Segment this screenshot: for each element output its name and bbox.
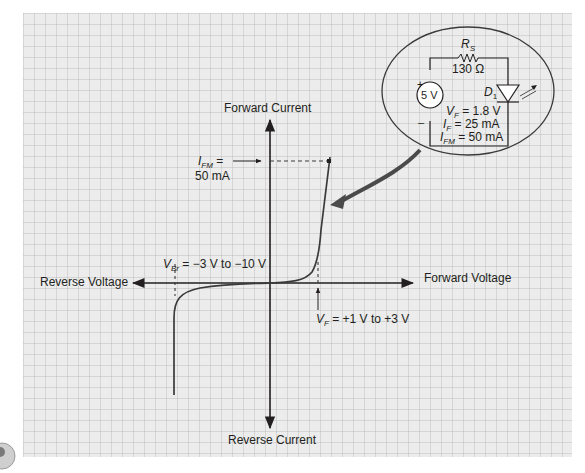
vbr-label: VBr = −3 V to −10 V: [163, 257, 266, 273]
label-forward-voltage: Forward Voltage: [424, 271, 512, 285]
label-reverse-voltage: Reverse Voltage: [40, 275, 128, 289]
resistor-value: 130 Ω: [452, 62, 484, 76]
label-reverse-current: Reverse Current: [228, 433, 317, 447]
ifm-value: 50 mA: [195, 169, 230, 183]
source-plus: +: [417, 78, 423, 90]
corner-disc-icon: [0, 443, 15, 469]
source-minus: –: [418, 116, 425, 128]
vf-label: VF = +1 V to +3 V: [316, 312, 409, 328]
source-value: 5 V: [421, 89, 438, 101]
ifm-point: [327, 159, 331, 163]
graph-paper: [23, 13, 572, 457]
iv-characteristic-diagram: Forward Current Reverse Current Forward …: [0, 0, 585, 473]
label-forward-current: Forward Current: [224, 101, 312, 115]
